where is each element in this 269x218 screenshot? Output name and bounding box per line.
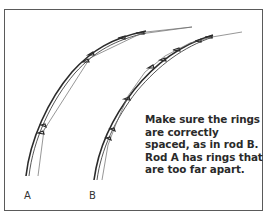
caption-line: are too far apart. bbox=[145, 163, 267, 176]
caption-line: Rod A has rings that bbox=[145, 151, 267, 164]
caption-line: are correctly bbox=[145, 126, 267, 139]
caption-line: Make sure the rings bbox=[145, 113, 267, 126]
rods-illustration bbox=[0, 0, 269, 218]
rod-b-label: B bbox=[89, 190, 96, 201]
rod-a-rings bbox=[38, 32, 144, 134]
rod-a-label: A bbox=[24, 190, 31, 201]
caption-line: spaced, as in rod B. bbox=[145, 138, 267, 151]
caption-text: Make sure the rings are correctly spaced… bbox=[145, 113, 267, 176]
